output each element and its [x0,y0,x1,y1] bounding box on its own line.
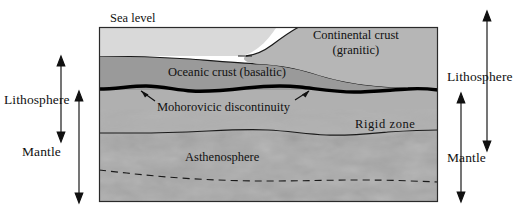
bracket-label-lithosphere-right: Lithosphere [447,70,513,84]
bracket-mantle-right [457,93,465,202]
label-asthenosphere: Asthenosphere [185,151,259,164]
label-continental-crust-line1: Continental crust [313,28,399,43]
lithosphere-cross-section-figure: Lithosphere Mantle Lithosphere Mantle Se… [0,0,527,211]
bracket-label-mantle-right: Mantle [447,151,486,165]
label-rigid-zone: Rigid zone [355,118,416,131]
label-oceanic-crust: Oceanic crust (basaltic) [168,66,286,79]
bracket-mantle-left [75,91,83,203]
label-continental-crust-line2: (granitic) [313,43,399,58]
label-continental-crust: Continental crust (granitic) [313,28,399,58]
bracket-label-lithosphere-left: Lithosphere [4,93,70,107]
label-mohorovicic-discontinuity: Mohorovicic discontinuity [157,101,290,114]
sea-water-layer [99,28,276,56]
label-sea-level: Sea level [110,12,155,25]
bracket-label-mantle-left: Mantle [22,145,61,159]
